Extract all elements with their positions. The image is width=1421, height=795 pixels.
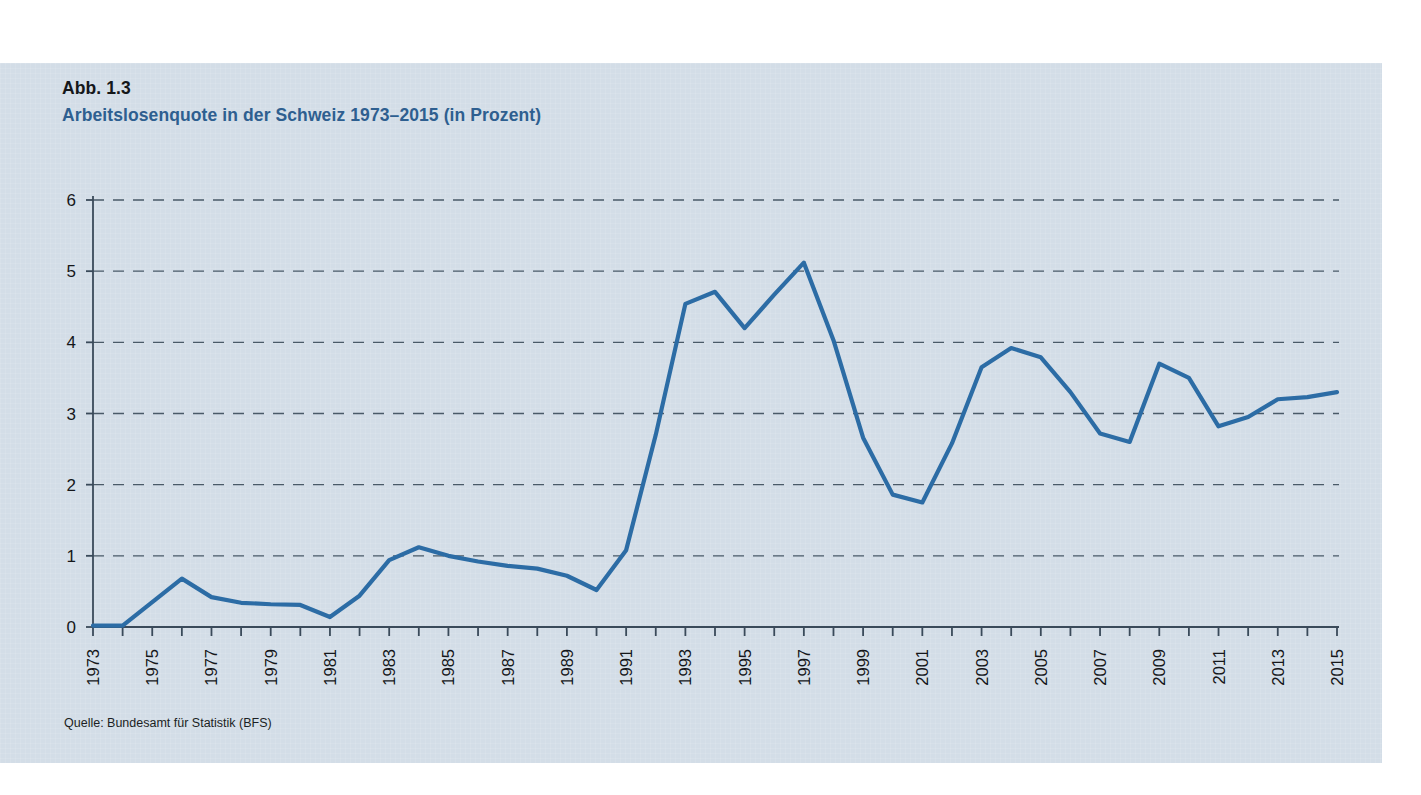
x-tick-label: 2011 <box>1210 649 1228 684</box>
x-tick-label: 2009 <box>1150 649 1168 686</box>
x-tick-label: 2003 <box>973 649 991 686</box>
y-axis-group <box>86 196 93 627</box>
y-tick-label: 0 <box>67 618 76 637</box>
x-tick-label: 1987 <box>499 649 517 686</box>
data-line-arbeitslosenquote <box>93 263 1337 626</box>
y-tick-label: 4 <box>67 333 76 352</box>
source-note: Quelle: Bundesamt für Statistik (BFS) <box>64 716 272 730</box>
x-tick-label: 2007 <box>1091 649 1109 686</box>
figure-root: Abb. 1.3 Arbeitslosenquote in der Schwei… <box>0 0 1421 795</box>
x-tick-label: 1999 <box>854 649 872 686</box>
x-tick-label: 1983 <box>380 649 398 686</box>
y-tick-labels-group: 0123456 <box>67 191 76 637</box>
x-tick-label: 2013 <box>1269 649 1287 686</box>
line-chart-plot: 0123456 19731975197719791981198319851987… <box>0 0 1421 795</box>
x-tick-label: 1995 <box>736 649 754 686</box>
x-tick-label: 1989 <box>558 649 576 686</box>
data-series-group <box>93 263 1337 626</box>
y-tick-label: 5 <box>67 262 76 281</box>
y-tick-label: 2 <box>67 476 76 495</box>
x-axis-group <box>93 627 1339 636</box>
x-tick-label: 1997 <box>795 649 813 686</box>
x-tick-label: 1985 <box>439 649 457 686</box>
x-tick-labels-group: 1973197519771979198119831985198719891991… <box>84 649 1346 686</box>
x-tick-label: 2001 <box>913 649 931 686</box>
x-tick-label: 1993 <box>676 649 694 686</box>
x-tick-label: 2015 <box>1328 649 1346 686</box>
x-tick-label: 1991 <box>617 649 635 686</box>
y-tick-label: 6 <box>67 191 76 210</box>
y-tick-label: 1 <box>67 547 76 566</box>
y-tick-label: 3 <box>67 405 76 424</box>
x-tick-label: 1979 <box>262 649 280 686</box>
x-tick-label: 1977 <box>202 649 220 686</box>
x-tick-label: 1981 <box>321 649 339 686</box>
x-tick-label: 2005 <box>1032 649 1050 686</box>
x-tick-label: 1975 <box>143 649 161 686</box>
x-tick-label: 1973 <box>84 649 102 686</box>
